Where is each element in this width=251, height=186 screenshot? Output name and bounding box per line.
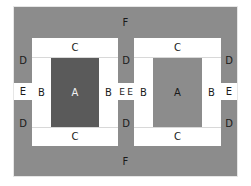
zone-c-left-top: C <box>32 38 118 57</box>
zone-c-left-bottom: C <box>32 127 118 146</box>
zone-d-right-top: D <box>221 38 237 83</box>
divider-right-bottom <box>134 127 221 128</box>
divider-right-top <box>134 57 221 58</box>
zone-d-mid-top: D <box>118 38 134 83</box>
zone-d-right-bottom: D <box>221 100 237 146</box>
zone-d-mid-bottom: D <box>118 100 134 146</box>
zone-c-right-bottom: C <box>134 127 221 146</box>
divider-left-bottom <box>32 127 118 128</box>
zone-e-mid-left: E <box>118 83 126 100</box>
zone-d-left-top: D <box>14 38 32 83</box>
zone-e-mid-right: E <box>126 83 134 100</box>
diagram-frame: F F C C D E D B A B D E E D C C B A B D … <box>14 7 237 176</box>
zone-a-left: A <box>51 57 99 127</box>
zone-b-right-2: B <box>202 57 221 127</box>
zone-b-right-1: B <box>134 57 153 127</box>
zone-c-right-top: C <box>134 38 221 57</box>
zone-e-right: E <box>221 83 237 100</box>
zone-a-right: A <box>153 57 202 127</box>
zone-b-left-2: B <box>99 57 118 127</box>
zone-f-top: F <box>14 7 237 38</box>
zone-f-bottom: F <box>14 146 237 176</box>
divider-left-top <box>32 57 118 58</box>
zone-e-left: E <box>14 83 32 100</box>
zone-d-left-bottom: D <box>14 100 32 146</box>
zone-b-left-1: B <box>32 57 51 127</box>
